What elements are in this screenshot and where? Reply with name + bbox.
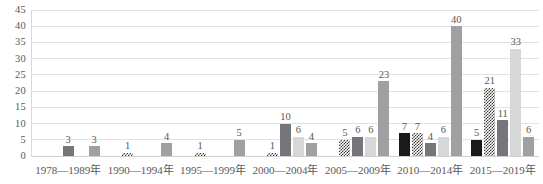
bar-value-label: 4 (309, 132, 314, 143)
bar: 1 (267, 153, 278, 156)
x-axis-tick-label: 1978—1989年 (32, 159, 104, 181)
bar-slot: 6 (438, 10, 449, 156)
bar-slot: 1 (195, 10, 206, 156)
bar-value-label: 6 (355, 125, 360, 136)
bar-chart: 051015202530354045 331415110645662377464… (0, 0, 543, 184)
bar: 10 (280, 124, 291, 156)
y-axis: 051015202530354045 (0, 10, 30, 156)
bar-group: 15 (177, 10, 249, 156)
bar-value-label: 4 (428, 132, 433, 143)
y-axis-tick-label: 35 (15, 37, 26, 48)
y-axis-tick-label: 45 (15, 5, 26, 16)
bar-value-label: 5 (342, 128, 347, 139)
y-axis-tick-label: 25 (15, 70, 26, 81)
bar-value-label: 1 (197, 141, 202, 152)
bar-value-label: 6 (441, 125, 446, 136)
bar: 6 (438, 137, 449, 156)
bar-slot: 11 (497, 10, 508, 156)
y-axis-tick-label: 10 (15, 118, 26, 129)
y-axis-tick-label: 20 (15, 86, 26, 97)
bar-group: 11064 (249, 10, 321, 156)
bar-slot: 4 (161, 10, 172, 156)
x-axis-tick-label: 1995—1999年 (177, 159, 249, 181)
bar-slot: 4 (425, 10, 436, 156)
y-axis-tick-label: 15 (15, 102, 26, 113)
bar: 4 (425, 143, 436, 156)
bar-value-label: 1 (125, 141, 130, 152)
bar-slot: 3 (89, 10, 100, 156)
bar-value-label: 3 (66, 135, 71, 146)
bar-value-label: 7 (402, 122, 407, 133)
bar-value-label: 7 (415, 122, 420, 133)
bar-value-label: 23 (379, 70, 390, 81)
bar-slot (254, 10, 265, 156)
bar: 7 (399, 133, 410, 156)
bar-value-label: 21 (484, 76, 495, 87)
bar-value-label: 40 (451, 15, 462, 26)
bar-group: 14 (104, 10, 176, 156)
bar-slot: 10 (280, 10, 291, 156)
bar-value-label: 6 (296, 125, 301, 136)
bar: 4 (161, 143, 172, 156)
bar-slot (109, 10, 120, 156)
x-axis-tick-label: 2005—2009年 (322, 159, 394, 181)
x-axis-tick-label: 2010—2014年 (394, 159, 466, 181)
bar-slot: 7 (399, 10, 410, 156)
bar-value-label: 10 (280, 112, 291, 123)
bar-slot (208, 10, 219, 156)
bar-slot (135, 10, 146, 156)
bar-slot: 5 (471, 10, 482, 156)
bar: 21 (484, 88, 495, 156)
bar-slot: 7 (412, 10, 423, 156)
bar-group: 56623 (322, 10, 394, 156)
bar: 5 (234, 140, 245, 156)
y-axis-tick-label: 40 (15, 21, 26, 32)
bar: 6 (293, 137, 304, 156)
bar-groups: 331415110645662377464052111336 (32, 10, 539, 156)
bar-slot: 40 (451, 10, 462, 156)
bar-slot: 1 (122, 10, 133, 156)
bar-value-label: 6 (526, 125, 531, 136)
bar: 6 (352, 137, 363, 156)
bar: 7 (412, 133, 423, 156)
x-axis: 1978—1989年1990—1994年1995—1999年2000—2004年… (32, 159, 539, 181)
bar-slot (326, 10, 337, 156)
bar: 5 (471, 140, 482, 156)
bar-value-label: 6 (368, 125, 373, 136)
bar-slot: 3 (63, 10, 74, 156)
bar: 6 (523, 137, 534, 156)
bar-value-label: 1 (270, 141, 275, 152)
bar-slot: 5 (339, 10, 350, 156)
bar-group: 774640 (394, 10, 466, 156)
bar-value-label: 3 (92, 135, 97, 146)
bar: 1 (195, 153, 206, 156)
bar: 5 (339, 140, 350, 156)
bar-slot (148, 10, 159, 156)
bar: 6 (365, 137, 376, 156)
bar-value-label: 5 (474, 128, 479, 139)
bar: 3 (63, 146, 74, 156)
bar-slot: 23 (378, 10, 389, 156)
bar: 3 (89, 146, 100, 156)
bar-group: 33 (32, 10, 104, 156)
bar-value-label: 4 (164, 132, 169, 143)
bar: 11 (497, 120, 508, 156)
bar-value-label: 33 (510, 37, 521, 48)
bar-slot (182, 10, 193, 156)
bar-slot: 1 (267, 10, 278, 156)
bar-value-label: 11 (498, 109, 508, 120)
bar-slot: 6 (352, 10, 363, 156)
bar: 23 (378, 81, 389, 156)
x-axis-tick-label: 2015—2019年 (467, 159, 539, 181)
bar-slot (76, 10, 87, 156)
bar: 1 (122, 153, 133, 156)
bar: 33 (510, 49, 521, 156)
bar-slot: 6 (293, 10, 304, 156)
bar: 4 (306, 143, 317, 156)
bar-slot: 5 (234, 10, 245, 156)
bar-slot (37, 10, 48, 156)
y-axis-tick-label: 30 (15, 53, 26, 64)
bar-slot (50, 10, 61, 156)
x-axis-tick-label: 2000—2004年 (249, 159, 321, 181)
y-axis-tick-label: 5 (21, 135, 26, 146)
